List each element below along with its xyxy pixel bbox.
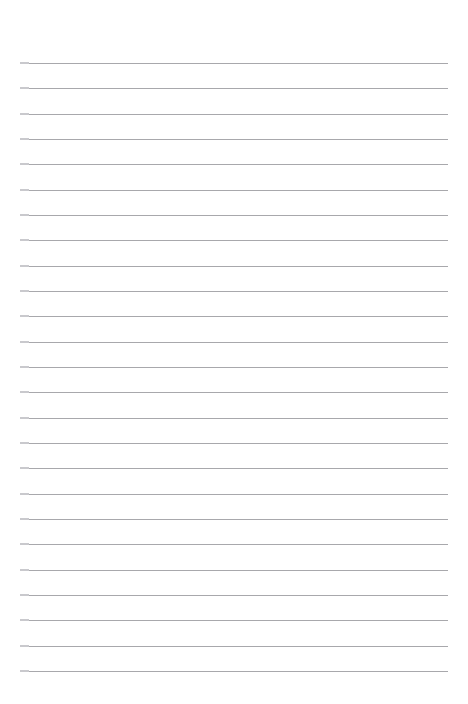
rule-line	[20, 114, 448, 115]
rule-line	[20, 291, 448, 292]
rule-line	[20, 595, 448, 596]
rule-line-left-cap	[20, 290, 29, 292]
rule-line-left-cap	[20, 442, 29, 444]
rule-line	[20, 392, 448, 393]
rule-line-left-cap	[20, 594, 29, 596]
rule-line-left-cap	[20, 113, 29, 115]
rule-line	[20, 63, 448, 64]
rule-line-left-cap	[20, 341, 29, 343]
rule-line	[20, 544, 448, 545]
rule-line-left-cap	[20, 467, 29, 469]
rule-line-left-cap	[20, 493, 29, 495]
rule-line-left-cap	[20, 417, 29, 419]
rule-line-left-cap	[20, 543, 29, 545]
rule-line-left-cap	[20, 214, 29, 216]
rule-line	[20, 646, 448, 647]
rule-line-left-cap	[20, 645, 29, 647]
rule-line	[20, 316, 448, 317]
rule-line-left-cap	[20, 569, 29, 571]
rule-line	[20, 190, 448, 191]
rule-line-left-cap	[20, 265, 29, 267]
rule-line-left-cap	[20, 670, 29, 672]
rule-line	[20, 240, 448, 241]
rule-line	[20, 418, 448, 419]
rule-line-left-cap	[20, 366, 29, 368]
rule-line	[20, 494, 448, 495]
rule-lines-group	[0, 0, 468, 704]
rule-line	[20, 671, 448, 672]
rule-line	[20, 443, 448, 444]
rule-line-left-cap	[20, 315, 29, 317]
rule-line-left-cap	[20, 189, 29, 191]
rule-line	[20, 215, 448, 216]
rule-line	[20, 88, 448, 89]
lined-paper-page	[0, 0, 468, 704]
rule-line	[20, 139, 448, 140]
rule-line-left-cap	[20, 163, 29, 165]
rule-line-left-cap	[20, 138, 29, 140]
rule-line-left-cap	[20, 518, 29, 520]
rule-line	[20, 164, 448, 165]
rule-line	[20, 342, 448, 343]
rule-line	[20, 570, 448, 571]
rule-line	[20, 367, 448, 368]
rule-line-left-cap	[20, 62, 29, 64]
rule-line	[20, 468, 448, 469]
rule-line-left-cap	[20, 239, 29, 241]
rule-line	[20, 620, 448, 621]
rule-line-left-cap	[20, 391, 29, 393]
rule-line-left-cap	[20, 87, 29, 89]
rule-line	[20, 519, 448, 520]
rule-line	[20, 266, 448, 267]
rule-line-left-cap	[20, 619, 29, 621]
